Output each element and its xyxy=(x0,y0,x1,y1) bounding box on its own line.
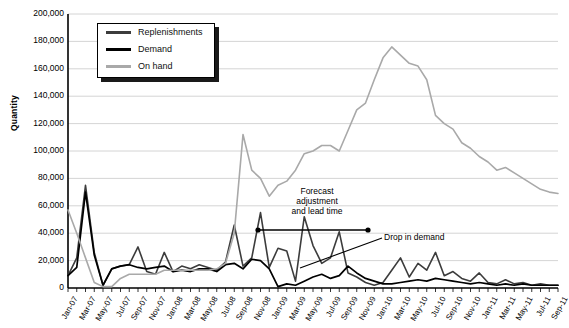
annotation-forecast-line2: adjustment xyxy=(274,196,360,206)
legend-label-demand: Demand xyxy=(138,45,172,54)
legend-label-replenishments: Replenishments xyxy=(138,28,203,37)
legend-item-replenishments: Replenishments xyxy=(106,24,214,41)
y-axis-title: Quantity xyxy=(9,73,19,153)
x-axis-tick-labels: Jan-07Mar-07May-07Jul-07Sep-07Nov-07Jan-… xyxy=(0,0,569,328)
legend-label-on-hand: On hand xyxy=(138,62,173,71)
legend-swatch-demand xyxy=(106,48,131,51)
chart-legend: Replenishments Demand On hand xyxy=(97,23,215,78)
legend-swatch-replenishments xyxy=(106,31,131,34)
legend-item-demand: Demand xyxy=(106,41,214,58)
annotation-forecast-adjustment: Forecast adjustment and lead time xyxy=(274,186,360,216)
annotation-forecast-line1: Forecast xyxy=(274,186,360,196)
annotation-forecast-line3: and lead time xyxy=(274,206,360,216)
legend-item-on-hand: On hand xyxy=(106,58,214,75)
inventory-chart: 020,00040,00060,00080,000100,000120,0001… xyxy=(0,0,569,328)
annotation-drop-in-demand: Drop in demand xyxy=(384,232,464,242)
legend-swatch-on-hand xyxy=(106,65,131,68)
